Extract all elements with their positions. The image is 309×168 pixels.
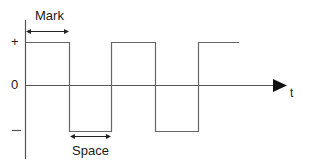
waveform-diagram <box>0 0 309 168</box>
space-dimension-arrow <box>70 134 111 139</box>
high-level-label: + <box>11 35 19 48</box>
signal-waveform <box>26 43 240 132</box>
space-label: Space <box>72 144 109 157</box>
time-axis-label: t <box>290 87 293 99</box>
mark-label: Mark <box>35 9 64 22</box>
x-axis-arrowhead-icon <box>273 79 287 92</box>
zero-level-label: 0 <box>11 78 18 91</box>
mark-dimension-arrow <box>26 29 69 34</box>
